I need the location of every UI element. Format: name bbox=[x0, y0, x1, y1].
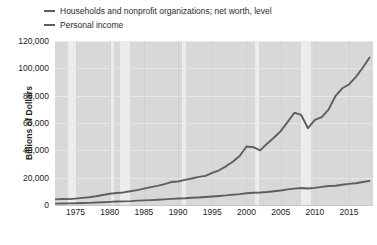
x-axis-tick-label: 1995 bbox=[203, 207, 222, 217]
line-personal-income bbox=[55, 181, 370, 204]
line-net-worth bbox=[55, 58, 370, 200]
y-axis-tick-label: 60,000 bbox=[0, 118, 49, 128]
x-axis-tick-label: 2015 bbox=[340, 207, 359, 217]
x-axis-tick-label: 1985 bbox=[134, 207, 153, 217]
x-axis-tick-label: 1990 bbox=[169, 207, 188, 217]
chart-container: Households and nonprofit organizations; … bbox=[0, 0, 377, 245]
legend-item-personal-income: Personal income bbox=[44, 18, 364, 31]
legend-item-net-worth: Households and nonprofit organizations; … bbox=[44, 4, 364, 17]
legend-label-personal-income: Personal income bbox=[60, 20, 123, 30]
x-axis-tick-label: 2010 bbox=[305, 207, 324, 217]
series-lines bbox=[55, 41, 373, 205]
x-axis-tick-labels: 197519801985199019952000200520102015 bbox=[55, 207, 373, 223]
legend-label-net-worth: Households and nonprofit organizations; … bbox=[60, 6, 272, 16]
y-axis-tick-label: 120,000 bbox=[0, 36, 49, 46]
x-axis-tick-label: 1980 bbox=[100, 207, 119, 217]
legend-line-marker-icon bbox=[44, 10, 55, 12]
x-axis-tick-label: 2005 bbox=[271, 207, 290, 217]
plot-area bbox=[55, 41, 373, 205]
x-axis-tick-label: 1975 bbox=[66, 207, 85, 217]
y-axis-tick-label: 20,000 bbox=[0, 173, 49, 183]
y-axis-tick-labels: 020,00040,00060,00080,000100,000120,000 bbox=[0, 41, 52, 205]
y-axis-tick-label: 40,000 bbox=[0, 145, 49, 155]
y-axis-tick-label: 80,000 bbox=[0, 91, 49, 101]
y-axis-tick-label: 100,000 bbox=[0, 63, 49, 73]
chart-legend: Households and nonprofit organizations; … bbox=[44, 4, 364, 34]
x-axis-tick-label: 2000 bbox=[237, 207, 256, 217]
y-axis-tick-label: 0 bbox=[0, 200, 49, 210]
x-axis-baseline bbox=[55, 205, 373, 206]
legend-line-marker-icon bbox=[44, 24, 55, 26]
